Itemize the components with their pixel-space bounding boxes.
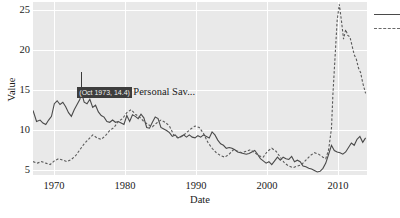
legend-item-0[interactable] xyxy=(372,8,400,22)
legend-swatch-dashed xyxy=(374,28,400,29)
x-tick-label: 1970 xyxy=(34,180,74,191)
y-tick-label: 10 xyxy=(6,125,30,135)
y-axis-title: Value xyxy=(6,60,17,120)
y-tick-label: 25 xyxy=(6,5,30,15)
y-tick-label: 20 xyxy=(6,45,30,55)
x-tick-label: 1980 xyxy=(105,180,145,191)
series-label: Personal Sav... xyxy=(133,86,195,97)
x-axis-title: Date xyxy=(0,194,400,205)
x-tick-label: 2000 xyxy=(247,180,287,191)
chart-container: 25 20 15 10 5 Value 1970 1980 1990 2000 … xyxy=(0,0,400,218)
legend xyxy=(372,8,400,36)
y-tick-label: 5 xyxy=(6,165,30,175)
legend-item-1[interactable] xyxy=(372,22,400,36)
series-path-0 xyxy=(33,92,366,172)
x-tick-label: 1990 xyxy=(176,180,216,191)
x-tick-label: 2010 xyxy=(318,180,358,191)
y-tick-label: 15 xyxy=(6,85,30,95)
legend-swatch-solid xyxy=(374,14,400,15)
data-point-tooltip: (Oct 1973, 14.4) xyxy=(77,87,132,98)
